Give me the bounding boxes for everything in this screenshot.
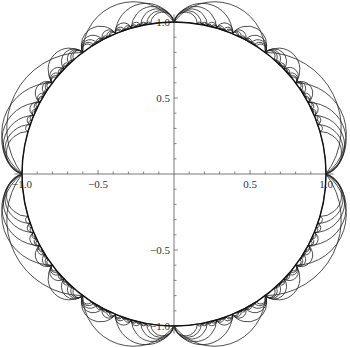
y-tick-label: −0.5 [150,244,170,256]
x-tick-label: −0.5 [88,178,108,190]
geodesic-arc [265,174,341,296]
axes: −1.0−0.50.51.01.00.5−0.5−1.0 [12,14,334,333]
geodesic-arc [318,125,343,174]
y-tick-label: 0.5 [156,92,170,104]
x-tick-label: 0.5 [243,178,257,190]
geodesic-arc [5,125,30,174]
geodesic-arc [22,22,174,174]
geodesic-arc [7,52,83,174]
plot-canvas: −1.0−0.50.51.01.00.5−0.5−1.0 [0,0,350,347]
hyperbolic-disk-figure: −1.0−0.50.51.01.00.5−0.5−1.0 [0,0,350,347]
geodesic-arc [174,22,326,174]
geodesic-arc [265,52,341,174]
geodesic-arc [7,174,83,296]
geodesic-arc [2,83,53,174]
geodesic-arc [296,83,347,174]
geodesic-arc [174,174,326,326]
